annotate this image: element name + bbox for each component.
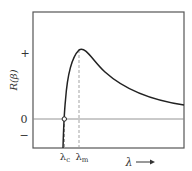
plot-frame bbox=[33, 12, 184, 148]
y-axis-label: R(β) bbox=[8, 69, 19, 91]
lambda-m-subscript: m bbox=[82, 156, 89, 164]
lambda-m-label: λm bbox=[76, 151, 89, 164]
lambda-c-label: λc bbox=[60, 151, 70, 164]
lambda-c-subscript: c bbox=[66, 156, 70, 164]
tick-plus: + bbox=[20, 47, 29, 60]
zero-crossing-marker bbox=[62, 117, 66, 121]
response-curve bbox=[63, 49, 184, 148]
tick-minus: − bbox=[19, 129, 28, 142]
x-axis-label: λ bbox=[125, 156, 133, 169]
tick-zero: 0 bbox=[21, 113, 28, 126]
arrow-right-icon bbox=[136, 160, 155, 165]
y-axis-label-arg: (β) bbox=[8, 69, 19, 83]
diagram: + 0 − R(β) λc λm λ bbox=[0, 0, 192, 171]
svg-text:R(β): R(β) bbox=[8, 69, 19, 91]
